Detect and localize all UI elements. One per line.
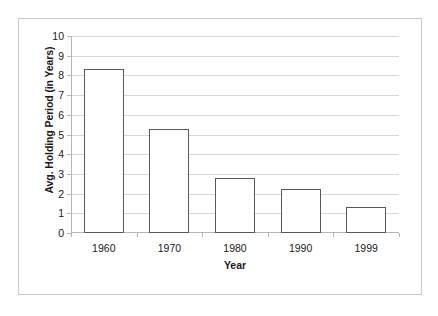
x-tick-label: 1960 [92,242,115,254]
gridline [71,36,399,37]
bar [346,207,386,233]
bar [215,178,255,233]
x-tick-label: 1999 [355,242,378,254]
y-tick-label: 6 [58,109,64,121]
x-axis-title: Year [71,259,399,271]
y-axis-line [71,36,72,233]
y-axis-title: Avg. Holding Period (in Years) [43,20,55,220]
gridline [71,56,399,57]
x-tick-mark [71,233,72,237]
y-tick-label: 1 [58,207,64,219]
x-tick-mark [333,233,334,237]
y-tick-label: 5 [58,129,64,141]
bar [281,189,321,233]
x-tick-mark [137,233,138,237]
y-tick-label: 7 [58,89,64,101]
x-tick-label: 1970 [158,242,181,254]
y-tick-label: 4 [58,148,64,160]
bar [149,129,189,233]
y-tick-label: 2 [58,188,64,200]
x-tick-mark [268,233,269,237]
y-tick-label: 10 [52,30,64,42]
chart-figure: Avg. Holding Period (in Years) 012345678… [18,18,422,295]
x-tick-label: 1990 [289,242,312,254]
y-tick-label: 3 [58,168,64,180]
x-tick-label: 1980 [223,242,246,254]
y-tick-label: 8 [58,69,64,81]
plot-area: 012345678910 19601970198019901999 [71,36,399,233]
x-tick-mark [202,233,203,237]
y-tick-label: 0 [58,227,64,239]
y-tick-label: 9 [58,50,64,62]
x-tick-mark [399,233,400,237]
bar [84,69,124,233]
